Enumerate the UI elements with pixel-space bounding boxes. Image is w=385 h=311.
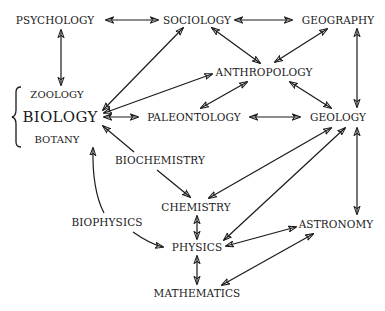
node-zoology: ZOOLOGY: [30, 90, 83, 100]
arrow-physics-astronomy: [226, 227, 296, 246]
arrow-biochemistry-chemistry: [157, 170, 190, 197]
node-chemistry: CHEMISTRY: [161, 202, 230, 213]
arrow-anthropology-biology: [104, 74, 212, 113]
node-biology: BIOLOGY: [22, 110, 97, 125]
arrow-biophysics-biology: [93, 148, 104, 213]
node-mathematics: MATHEMATICS: [154, 288, 241, 299]
node-geology: GEOLOGY: [310, 112, 366, 123]
arrow-geology-chemistry: [209, 128, 331, 198]
node-biophysics: BIOPHYSICS: [71, 217, 142, 228]
node-sociology: SOCIOLOGY: [163, 15, 231, 26]
arrow-biochemistry-biology: [103, 126, 134, 152]
node-geography: GEOGRAPHY: [302, 15, 375, 26]
node-anthropology: ANTHROPOLOGY: [215, 67, 312, 78]
arrow-sociology-biology: [103, 28, 183, 110]
node-physics: PHYSICS: [172, 242, 222, 253]
node-psychology: PSYCHOLOGY: [16, 15, 95, 26]
node-paleontology: PALEONTOLOGY: [147, 112, 241, 123]
arrow-sociology-anthropology: [212, 28, 260, 63]
node-botany: BOTANY: [34, 135, 79, 145]
node-biochemistry: BIOCHEMISTRY: [115, 155, 205, 166]
science-relationships-diagram: PSYCHOLOGY SOCIOLOGY GEOGRAPHY ANTHROPOL…: [0, 0, 385, 311]
biology-group-brace: [12, 87, 21, 147]
arrow-biophysics-physics: [133, 232, 163, 247]
arrow-mathematics-astronomy: [222, 234, 313, 285]
arrow-geography-anthropology: [275, 29, 327, 62]
arrow-anthropology-paleontology: [201, 82, 247, 108]
node-astronomy: ASTRONOMY: [299, 219, 374, 230]
arrow-anthropology-geology: [290, 82, 331, 108]
